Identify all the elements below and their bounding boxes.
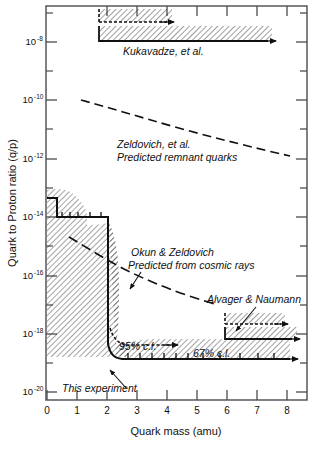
x-tick-label-1: 1 bbox=[74, 405, 80, 416]
y-axis-right-ticks bbox=[296, 13, 307, 392]
y-tick-base-4: 10 bbox=[22, 270, 33, 281]
y-tick-exp-3: -14 bbox=[34, 210, 44, 217]
cl95-label: 95% c.l. bbox=[119, 340, 156, 352]
y-tick-label-1: 10 -10 bbox=[22, 93, 43, 105]
cl67-label: 67% c.l. bbox=[193, 347, 230, 359]
y-tick-base-3: 10 bbox=[22, 211, 33, 222]
x-tick-label-7: 7 bbox=[254, 405, 260, 416]
x-tick-label-6: 6 bbox=[224, 405, 230, 416]
quark-to-proton-ratio-chart: 10 -8 10 -10 10 -12 10 -14 10 -16 10 -18 bbox=[0, 0, 324, 451]
y-tick-base-2: 10 bbox=[22, 153, 33, 164]
okun-label-line1: Okun & Zeldovich bbox=[131, 246, 214, 258]
y-axis-tick-labels: 10 -8 10 -10 10 -12 10 -14 10 -16 10 -18 bbox=[22, 35, 43, 397]
y-tick-exp-0: -8 bbox=[37, 35, 43, 42]
y-tick-label-4: 10 -16 bbox=[22, 269, 43, 281]
y-tick-label-0: 10 -8 bbox=[25, 35, 43, 47]
y-tick-label-5: 10 -18 bbox=[22, 327, 43, 339]
kukavadze-dashed-band bbox=[99, 9, 174, 22]
y-tick-base-0: 10 bbox=[25, 36, 36, 47]
alvager-dashed-band bbox=[225, 313, 288, 324]
y-tick-label-6: 10 -20 bbox=[22, 385, 43, 397]
alvager-label: Alvager & Naumann bbox=[206, 293, 301, 305]
kukavadze-solid-band bbox=[99, 26, 276, 41]
y-tick-base-6: 10 bbox=[22, 386, 33, 397]
alvager-solid-band bbox=[225, 327, 300, 339]
chart-svg: 10 -8 10 -10 10 -12 10 -14 10 -16 10 -18 bbox=[0, 0, 324, 451]
x-tick-label-8: 8 bbox=[284, 405, 290, 416]
y-tick-label-2: 10 -12 bbox=[22, 152, 43, 164]
y-tick-exp-5: -18 bbox=[34, 327, 44, 334]
y-tick-base-1: 10 bbox=[22, 94, 33, 105]
y-tick-exp-2: -12 bbox=[34, 152, 44, 159]
kukavadze-label: Kukavadze, et al. bbox=[123, 45, 204, 57]
x-tick-label-4: 4 bbox=[164, 405, 170, 416]
y-tick-exp-6: -20 bbox=[34, 385, 44, 392]
okun-label-line2: Predicted from cosmic rays bbox=[128, 259, 255, 271]
zeldovich-label-line2: Predicted remnant quarks bbox=[117, 151, 238, 163]
x-tick-label-5: 5 bbox=[194, 405, 200, 416]
y-axis-title: Quark to Proton ratio (q/p) bbox=[6, 139, 18, 267]
y-tick-label-3: 10 -14 bbox=[22, 210, 43, 222]
x-tick-label-2: 2 bbox=[104, 405, 110, 416]
y-tick-exp-4: -16 bbox=[34, 269, 44, 276]
x-axis-tick-labels: 0 1 2 3 4 5 6 7 8 bbox=[44, 405, 290, 416]
zeldovich-label-line1: Zeldovich, et al. bbox=[116, 138, 191, 150]
x-axis-title: Quark mass (amu) bbox=[130, 425, 221, 437]
x-tick-label-3: 3 bbox=[134, 405, 140, 416]
y-tick-base-5: 10 bbox=[22, 328, 33, 339]
x-tick-label-0: 0 bbox=[44, 405, 50, 416]
y-tick-exp-1: -10 bbox=[34, 93, 44, 100]
this-experiment-label: This experiment bbox=[62, 382, 138, 394]
